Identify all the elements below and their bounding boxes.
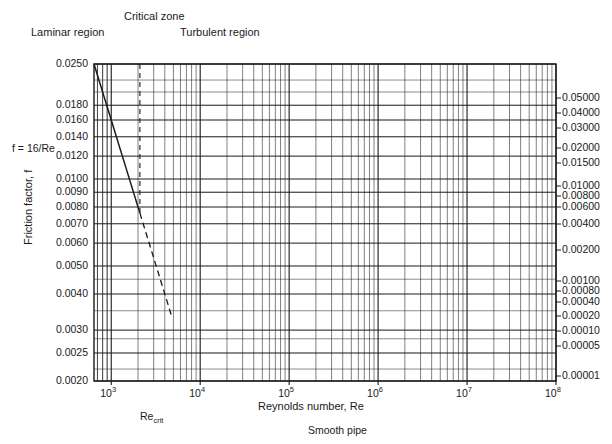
x-tick-label: 105 [278, 385, 294, 399]
re-crit-base: Re [140, 410, 153, 422]
moody-diagram-figure: Laminar region Critical zone Turbulent r… [0, 0, 612, 444]
y-tick-label: 0.0070 [56, 217, 88, 229]
y-tick-label: 0.0160 [56, 113, 88, 125]
laminar-region-label: Laminar region [31, 26, 104, 38]
relative-roughness-label: 0.00600 [562, 200, 600, 212]
smooth-pipe-label: Smooth pipe [308, 424, 367, 436]
y-tick-label: 0.0140 [56, 130, 88, 142]
y-axis-title: Friction factor, f [22, 170, 34, 245]
laminar-line [94, 64, 140, 213]
x-tick-label: 106 [367, 385, 383, 399]
x-tick-label: 108 [545, 385, 561, 399]
critical-zone-label: Critical zone [124, 10, 185, 22]
relative-roughness-label: 0.05000 [562, 91, 600, 103]
relative-roughness-label: 0.00010 [562, 324, 600, 336]
x-axis-title: Reynolds number, Re [258, 400, 364, 412]
laminar-formula-label: f = 16/Re [12, 142, 55, 154]
x-tick-label: 104 [189, 385, 205, 399]
relative-roughness-label: 0.00020 [562, 309, 600, 321]
y-tick-label: 0.0080 [56, 200, 88, 212]
turbulent-region-label: Turbulent region [180, 26, 260, 38]
x-tick-label: 107 [456, 385, 472, 399]
re-crit-subscript: crit [153, 416, 163, 425]
x-tick-label: 103 [100, 385, 116, 399]
y-tick-label: 0.0030 [56, 323, 88, 335]
y-tick-label: 0.0250 [56, 57, 88, 69]
y-tick-label: 0.0040 [56, 287, 88, 299]
relative-roughness-label: 0.00001 [562, 369, 600, 381]
y-tick-label: 0.0060 [56, 236, 88, 248]
laminar-extension-line [140, 213, 172, 317]
relative-roughness-label: 0.00005 [562, 339, 600, 351]
y-tick-label: 0.0050 [56, 259, 88, 271]
y-tick-label: 0.0120 [56, 149, 88, 161]
relative-roughness-label: 0.02000 [562, 141, 600, 153]
relative-roughness-label: 0.00400 [562, 217, 600, 229]
relative-roughness-label: 0.01500 [562, 156, 600, 168]
y-tick-label: 0.0025 [56, 346, 88, 358]
y-tick-label: 0.0090 [56, 185, 88, 197]
y-tick-label: 0.0020 [56, 374, 88, 386]
chart-canvas [0, 0, 612, 444]
relative-roughness-label: 0.00040 [562, 295, 600, 307]
relative-roughness-label: 0.03000 [562, 121, 600, 133]
y-tick-label: 0.0180 [56, 98, 88, 110]
y-tick-label: 0.0100 [56, 172, 88, 184]
relative-roughness-label: 0.00200 [562, 243, 600, 255]
relative-roughness-label: 0.04000 [562, 106, 600, 118]
re-crit-label: Recrit [140, 410, 163, 425]
plot-frame [94, 64, 556, 381]
